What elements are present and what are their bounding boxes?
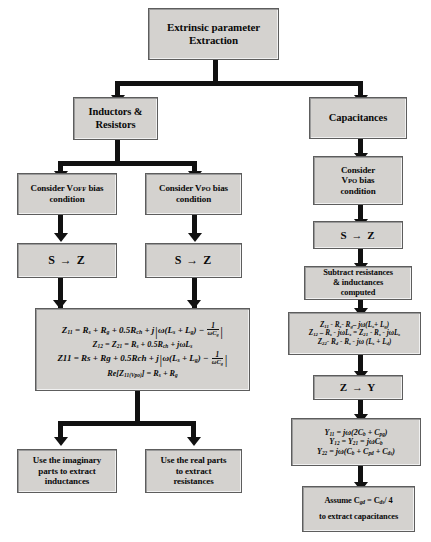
fraction-one-over-omega-cg-2: 1ωCg — [212, 351, 223, 367]
node-consider-vpo-bias-right[interactable]: Consider VPO bias condition — [313, 156, 403, 205]
node-s-to-z-left-label: S → Z — [18, 253, 116, 267]
node-capacitances-label: Capacitances — [313, 112, 403, 124]
equation-z12-z21: Z12 = Z21 = Rs + 0.5Rch + jωLs — [39, 340, 246, 350]
connector-inductors-down — [115, 140, 120, 161]
node-s-to-z-cap-label: S → Z — [314, 229, 402, 242]
equation-z11-voff: Z11 = Rs + Rg + 0.5Rch + j|ω(Ls + Lg) − … — [39, 323, 246, 340]
node-vpo-right-line3: condition — [317, 186, 399, 197]
equation-z12-subtract: Z12 – Rs - jωLs = Z21 - Rs - jωLs — [292, 329, 417, 338]
node-inductors-line2: Resistors — [77, 119, 154, 131]
node-s-to-z-capacitance[interactable]: S → Z — [313, 221, 403, 249]
connector-split-bar-2 — [58, 161, 197, 166]
node-y-parameter-equations[interactable]: Y11 = jω(2Cb + Cpg) Y12 = Y21 = jωCb Y22… — [291, 418, 421, 466]
equation-re-z11-vpo: Re[Z11(Vpo)] = Rs + Rg — [39, 369, 246, 379]
flowchart-canvas: Extrinsic parameter Extraction Inductors… — [0, 0, 431, 542]
node-root-line2: Extraction — [152, 34, 275, 47]
node-use-real-line2: to extract — [149, 466, 238, 477]
node-use-real-parts[interactable]: Use the real parts to extract resistance… — [145, 449, 242, 493]
node-root-line1: Extrinsic parameter — [152, 21, 275, 34]
node-use-imaginary-line2: parts to extract — [21, 466, 113, 477]
node-subtract-line3: computed — [308, 288, 408, 298]
node-extrinsic-parameter-extraction[interactable]: Extrinsic parameter Extraction — [148, 8, 279, 60]
node-assume-line2: to extract capacitances — [306, 512, 411, 522]
node-consider-voff-bias[interactable]: Consider VOFF bias condition — [17, 173, 117, 215]
node-assume-line1: Assume Cgd = Cds/ 4 — [306, 496, 411, 506]
node-z-subtraction-equations[interactable]: Z11 - Rs- Rg– jω(Ls+ Lg) Z12 – Rs - jωLs… — [288, 312, 421, 355]
node-vpo-left-line1: Consider VPO bias — [149, 183, 238, 194]
equation-z11-vpo: Z11 = Rs + Rg + 0.5Rch + j|ω(Ls + Lg) − … — [39, 351, 246, 368]
node-subtract-line1: Subtract resistances — [308, 268, 408, 278]
node-use-imaginary-line3: inductances — [21, 476, 113, 487]
node-vpo-left-subscript: PO — [201, 185, 210, 192]
node-subtract-line2: & inductances — [308, 278, 408, 288]
node-inductors-resistors[interactable]: Inductors & Resistors — [73, 97, 158, 140]
node-use-real-line1: Use the real parts — [149, 455, 238, 466]
equation-y11: Y11 = jω(2Cb + Cpg) — [295, 428, 417, 437]
arrowhead-use-real — [187, 437, 201, 446]
equation-y22: Y22 = jω(Cb + Cpd + Cds) — [295, 447, 417, 456]
node-vpo-left-line2: condition — [149, 194, 238, 205]
fraction-one-over-omega-cg: 1ωCg — [207, 322, 218, 338]
arrowhead-stoz-right — [188, 233, 202, 242]
connector-root-down — [213, 60, 218, 81]
node-vpo-right-line2: VPO bias — [317, 175, 399, 186]
node-s-to-z-right[interactable]: S → Z — [145, 243, 242, 278]
node-z-parameter-equations[interactable]: Z11 = Rs + Rg + 0.5Rch + j|ω(Ls + Lg) − … — [35, 308, 250, 391]
node-vpo-right-line1: Consider — [317, 165, 399, 176]
node-z-to-y[interactable]: Z → Y — [313, 375, 403, 400]
node-s-to-z-right-label: S → Z — [146, 253, 241, 267]
node-assume-cgd-extract-capacitances[interactable]: Assume Cgd = Cds/ 4 to extract capacitan… — [302, 486, 415, 532]
equation-z22-subtract: Z22- Rd - Rs - jω (Ls + Ld) — [292, 338, 417, 347]
node-voff-line1: Consider VOFF bias — [21, 183, 113, 194]
node-capacitances[interactable]: Capacitances — [309, 97, 407, 139]
node-consider-vpo-bias-left[interactable]: Consider VPO bias condition — [145, 173, 242, 215]
connector-voff-down — [58, 215, 63, 235]
node-s-to-z-left[interactable]: S → Z — [17, 243, 117, 278]
arrowhead-use-imaginary — [54, 437, 68, 446]
node-use-imaginary-parts[interactable]: Use the imaginary parts to extract induc… — [17, 449, 117, 493]
node-vpo-right-subscript: PO — [348, 177, 357, 184]
node-voff-subscript: OFF — [73, 185, 86, 192]
arrowhead-stoz-left — [54, 233, 68, 242]
equation-y12-y21: Y12 = Y21 = jωCb — [295, 437, 417, 446]
node-inductors-line1: Inductors & — [77, 106, 154, 118]
node-voff-line2: condition — [21, 194, 113, 205]
connector-split-bar-1 — [115, 81, 363, 86]
node-use-imaginary-line1: Use the imaginary — [21, 455, 113, 466]
connector-vpo-left-down — [192, 215, 197, 235]
connector-split-bar-3 — [58, 421, 196, 426]
equation-z11-subtract: Z11 - Rs- Rg– jω(Ls+ Lg) — [292, 321, 417, 330]
node-use-real-line3: resistances — [149, 476, 238, 487]
node-z-to-y-label: Z → Y — [314, 381, 402, 394]
node-subtract-resistances-inductances[interactable]: Subtract resistances & inductances compu… — [304, 266, 412, 300]
connector-eq-down — [135, 391, 140, 421]
